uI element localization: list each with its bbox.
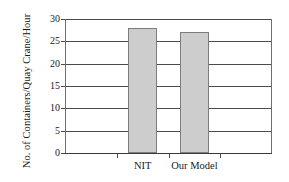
x-axis-category-label: NIT <box>134 160 152 173</box>
y-axis-tick-label: 0 <box>55 148 60 158</box>
bar <box>128 28 157 153</box>
y-axis-tick-label: 25 <box>50 36 60 46</box>
x-axis-tick-labels: NITOur Model <box>65 160 272 176</box>
y-axis-tick-labels: 051015202530 <box>26 19 60 153</box>
bar-chart-figure: No. of Containers/Quay Crane/Hour 051015… <box>0 0 289 182</box>
bar <box>180 32 209 153</box>
y-axis-tick-label: 15 <box>50 81 60 91</box>
y-axis-tick-label: 10 <box>50 103 60 113</box>
bars-group <box>65 19 272 153</box>
x-axis-tick-mark <box>220 153 221 158</box>
y-axis-tick-label: 5 <box>55 126 60 136</box>
x-axis-tick-marks <box>65 153 272 159</box>
x-axis-tick-mark <box>117 153 118 158</box>
y-axis-tick-label: 20 <box>50 59 60 69</box>
plot-area <box>65 19 272 153</box>
y-axis-tick-label: 30 <box>50 14 60 24</box>
x-axis-tick-mark <box>169 153 170 158</box>
x-axis-category-label: Our Model <box>171 160 217 173</box>
